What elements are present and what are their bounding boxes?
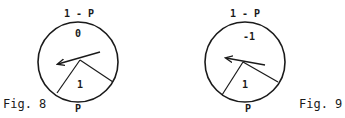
figures-canvas: 1 - P 0 1 P 1 - P -1 1 P	[0, 0, 345, 118]
fig-9-spinner: 1 - P -1 1 P	[205, 8, 285, 114]
fig-8-lower-region-label: 1	[77, 79, 83, 90]
fig-8-upper-region-label: 0	[75, 28, 81, 39]
fig-8-top-label: 1 - P	[64, 8, 94, 19]
fig-9-sector-line-right	[243, 62, 278, 82]
fig-9-top-label: 1 - P	[230, 8, 260, 19]
fig-8-bottom-label: P	[75, 103, 81, 114]
fig-9-caption: Fig. 9	[299, 98, 342, 110]
fig-9-sector-line-left	[222, 62, 243, 95]
fig-8-sector-line-right	[80, 60, 113, 82]
fig-9-bottom-label: P	[245, 103, 251, 114]
fig-9-lower-region-label: 1	[242, 79, 248, 90]
fig-8-spinner: 1 - P 0 1 P	[38, 8, 118, 114]
fig-9-upper-region-label: -1	[243, 31, 255, 42]
fig-8-caption: Fig. 8	[3, 98, 46, 110]
